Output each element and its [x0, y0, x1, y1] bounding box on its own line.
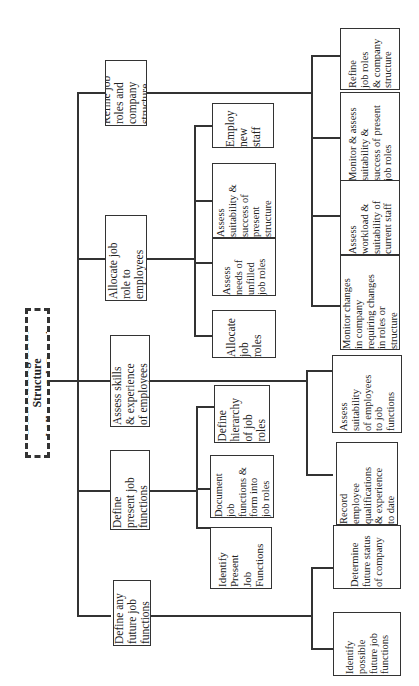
- node-monitor-changes: Monitor changes in company requiring cha…: [340, 255, 400, 350]
- node-label: Define hierarchy of job roles: [216, 387, 268, 442]
- connector: [306, 474, 333, 476]
- node-label: Assess suitability & success of present …: [215, 165, 274, 237]
- connector: [147, 258, 195, 260]
- node-label: Allocate job role to employees: [107, 217, 146, 299]
- connector: [311, 215, 341, 217]
- node-label: Define present job functions: [111, 452, 150, 528]
- node-label: Define any future job functions: [113, 582, 151, 644]
- connector: [194, 262, 212, 264]
- connector: [194, 335, 212, 337]
- node-assess-workload: Assess workload & suitability of current…: [340, 180, 400, 255]
- connector: [306, 370, 308, 475]
- connector: [77, 490, 111, 492]
- connector: [311, 305, 341, 307]
- connector: [50, 380, 78, 382]
- node-assess-present-structure: Assess suitability & success of present …: [212, 163, 276, 238]
- node-label: Monitor changes in company requiring cha…: [341, 257, 400, 349]
- node-label: Refine job roles & company structure: [347, 30, 394, 88]
- root-node: Define Management Structure and Allocate…: [25, 308, 50, 458]
- connector: [77, 380, 111, 382]
- connector: [77, 92, 106, 94]
- node-record-qualifications: Record employee qualifications & experie…: [336, 442, 398, 525]
- connector: [150, 490, 197, 492]
- node-label: Assess suitability of employees to job f…: [338, 357, 397, 431]
- connector: [151, 615, 312, 617]
- connector: [196, 406, 214, 408]
- node-refine-roles-structure: Refine job roles & company structure: [340, 28, 400, 90]
- node-define-future: Define any future job functions: [113, 580, 151, 646]
- node-label: Refine job roles and company structure: [105, 62, 147, 124]
- connector: [311, 567, 333, 569]
- node-allocate-job-roles: Allocate job roles: [212, 310, 276, 358]
- node-label: Employ new staff: [224, 105, 263, 147]
- node-refine-job-roles: Refine job roles and company structure: [105, 60, 147, 126]
- node-assess-unfilled-roles: Assess needs of unfilled job roles: [212, 238, 276, 296]
- node-assess-suitability-employees: Assess suitability of employees to job f…: [332, 355, 402, 433]
- connector: [150, 380, 307, 382]
- node-label: Identify possible future job functions: [344, 614, 391, 674]
- connector: [147, 92, 312, 94]
- node-label: Document job functions & form into job r…: [213, 457, 272, 517]
- node-employ-new-staff: Employ new staff: [212, 103, 274, 148]
- connector: [306, 370, 333, 372]
- connector: [311, 567, 313, 649]
- node-label: Allocate job roles: [225, 311, 264, 357]
- root-node-label: Define Management Structure and Allocate…: [25, 310, 50, 456]
- node-label: Assess workload & suitability of current…: [347, 182, 394, 254]
- connector: [311, 648, 333, 650]
- node-label: Monitor & assess suitability & success o…: [347, 93, 394, 181]
- connector: [194, 125, 196, 335]
- node-define-present: Define present job functions: [110, 450, 150, 530]
- connector: [311, 55, 341, 57]
- connector: [77, 615, 111, 617]
- connector: [196, 406, 198, 528]
- node-assess-skills: Assess skills & experience of employees: [110, 335, 150, 427]
- node-monitor-assess-roles: Monitor & assess suitability & success o…: [340, 92, 400, 182]
- node-label: Record employee qualifications & experie…: [338, 444, 397, 524]
- node-label: Determine future status of company: [349, 527, 384, 587]
- node-define-hierarchy: Define hierarchy of job roles: [214, 385, 270, 443]
- node-label: Identify Present Job Functions: [216, 529, 265, 587]
- connector: [311, 55, 313, 305]
- connector: [194, 125, 212, 127]
- connector: [194, 200, 212, 202]
- connector: [77, 258, 106, 260]
- node-identify-present-functions: Identify Present Job Functions: [210, 527, 272, 589]
- node-document-functions: Document job functions & form into job r…: [210, 455, 274, 518]
- connector: [77, 92, 79, 616]
- node-determine-future-status: Determine future status of company: [333, 525, 401, 589]
- node-label: Assess skills & experience of employees: [111, 337, 150, 425]
- node-label: Assess needs of unfilled job roles: [221, 239, 268, 295]
- node-identify-future-functions: Identify possible future job functions: [333, 612, 401, 676]
- connector: [311, 137, 341, 139]
- node-allocate-job-role: Allocate job role to employees: [105, 215, 147, 301]
